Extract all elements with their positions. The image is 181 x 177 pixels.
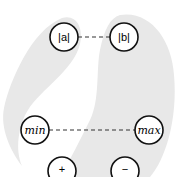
node-min: min [21,116,49,144]
diagram-canvas: |a| |b| min max + − [0,0,181,177]
node-max: max [135,116,163,144]
svg-text:|a|: |a| [58,31,70,43]
node-plus: + [48,157,76,177]
svg-text:|b|: |b| [118,31,130,43]
node-abs-a: |a| [50,23,78,51]
svg-text:min: min [24,124,45,137]
svg-text:+: + [59,163,65,175]
svg-text:−: − [122,163,128,175]
svg-text:max: max [137,124,161,137]
node-minus: − [111,157,139,177]
node-abs-b: |b| [110,23,138,51]
